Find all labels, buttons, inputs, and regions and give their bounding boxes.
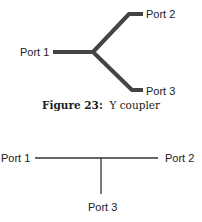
y-coupler-waveguide [53, 14, 143, 90]
figure-caption-label: Figure 23: [42, 99, 103, 111]
y-port3-label: Port 3 [146, 85, 175, 97]
t-coupler-lines [35, 158, 158, 194]
figure-caption: Figure 23: Y coupler [0, 99, 202, 112]
figure-caption-text: Y coupler [109, 99, 160, 111]
y-port1-label: Port 1 [20, 46, 49, 58]
diagram-canvas: Port 1 Port 2 Port 3 Figure 23: Y couple… [0, 0, 202, 222]
y-coupler-upper-branch [93, 14, 143, 52]
t-port1-label: Port 1 [1, 152, 30, 164]
y-port2-label: Port 2 [146, 8, 175, 20]
t-port2-label: Port 2 [165, 152, 194, 164]
t-port3-label: Port 3 [88, 201, 117, 213]
y-coupler-lower-branch [93, 52, 143, 90]
